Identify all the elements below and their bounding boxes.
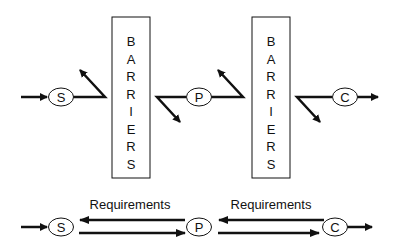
node-c-bottom-label: C: [330, 220, 339, 235]
barrier-letter: R: [126, 139, 135, 154]
node-s-bottom: S: [49, 218, 74, 236]
barrier-letter: A: [267, 52, 276, 67]
barrier-1: BARRIERS: [112, 17, 150, 178]
node-s: S: [49, 88, 74, 106]
barrier-letter: I: [129, 104, 133, 119]
deflected-arrow-p: [212, 70, 244, 97]
barrier-letter: R: [266, 87, 275, 102]
diagram-canvas: S BARRIERS P BARRIERS C S Requi: [0, 0, 397, 251]
requirements-label-1: Requirements: [90, 197, 171, 212]
barrier-letter: B: [127, 34, 136, 49]
node-c-bottom: C: [323, 218, 348, 236]
top-row: S BARRIERS P BARRIERS C: [21, 17, 378, 178]
node-c-label: C: [340, 90, 349, 105]
node-c: C: [333, 88, 358, 106]
node-p-bottom-label: P: [195, 220, 204, 235]
barrier-letter: B: [267, 34, 276, 49]
barrier-letter: R: [266, 139, 275, 154]
deflected-arrow-barrier2-out: [297, 97, 332, 122]
barrier-letter: E: [267, 122, 276, 137]
node-s-label: S: [57, 90, 66, 105]
barrier-letter: R: [266, 69, 275, 84]
barrier-letter: A: [127, 52, 136, 67]
barrier-letter: S: [267, 157, 276, 172]
deflected-arrow-s: [74, 70, 106, 97]
requirements-label-2: Requirements: [231, 197, 312, 212]
barrier-letter: I: [269, 104, 273, 119]
node-p-label: P: [195, 90, 204, 105]
node-p: P: [187, 88, 212, 106]
node-p-bottom: P: [187, 218, 212, 236]
node-s-bottom-label: S: [57, 220, 66, 235]
barrier-letter: S: [127, 157, 136, 172]
bottom-row: S Requirements P Requirements C: [21, 197, 372, 236]
barrier-letter: R: [126, 69, 135, 84]
barrier-2: BARRIERS: [252, 17, 290, 178]
barrier-letter: E: [127, 122, 136, 137]
barrier-letter: R: [126, 87, 135, 102]
deflected-arrow-barrier1-out: [157, 97, 186, 122]
